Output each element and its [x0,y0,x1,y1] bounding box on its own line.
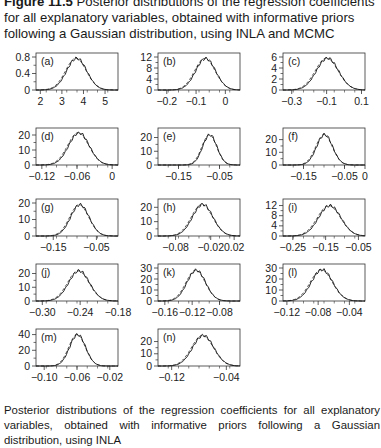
svg-text:20: 20 [18,129,30,141]
panel-label: (j) [41,266,50,278]
figure-number: Figure 11.5 [4,0,73,9]
panel-e: 01020−0.15−0.05(e) [124,120,254,195]
svg-text:10: 10 [140,145,152,157]
svg-text:−0.15: −0.15 [40,241,67,253]
svg-text:0.1: 0.1 [354,95,369,107]
svg-text:10: 10 [140,215,152,227]
svg-text:30: 30 [265,262,277,274]
svg-text:10: 10 [18,281,30,293]
svg-text:−0.05: −0.05 [83,241,110,253]
svg-text:10: 10 [18,213,30,225]
svg-text:−0.08: −0.08 [162,241,189,253]
svg-text:−0.15: −0.15 [165,170,192,182]
svg-text:−0.1: −0.1 [316,95,337,107]
svg-text:−0.12: −0.12 [158,371,185,383]
svg-text:−0.10: −0.10 [31,371,58,383]
panel-f: 01020−0.15−0.050(f) [249,120,379,195]
panel-label: (f) [288,130,298,142]
svg-text:−0.12: −0.12 [179,306,206,318]
panel-d: 01020−0.12−0.060(d) [2,120,132,195]
svg-text:−0.04: −0.04 [336,306,363,318]
svg-text:2: 2 [271,73,277,85]
svg-text:20: 20 [265,273,277,285]
svg-text:20: 20 [265,133,277,145]
panel-label: (i) [288,201,297,213]
svg-text:−0.02: −0.02 [197,241,224,253]
panel-label: (h) [163,201,176,213]
svg-text:20: 20 [140,201,152,213]
panel-label: (m) [41,331,57,343]
svg-text:4: 4 [81,95,87,107]
svg-text:0: 0 [222,95,228,107]
svg-text:−0.02: −0.02 [97,371,124,383]
svg-text:0: 0 [362,170,368,182]
svg-text:12: 12 [140,51,152,63]
svg-text:−0.05: −0.05 [331,170,358,182]
svg-text:0: 0 [146,159,152,171]
svg-text:−0.05: −0.05 [345,241,372,253]
svg-text:20: 20 [140,273,152,285]
panel-label: (e) [163,130,176,142]
svg-text:30: 30 [140,262,152,274]
panel-b: 04812−0.2−0.10(b) [124,45,254,120]
svg-text:20: 20 [18,197,30,209]
svg-text:10: 10 [18,144,30,156]
panel-k: 0102030−0.16−0.12−0.08(k) [124,256,254,331]
svg-text:5: 5 [102,95,108,107]
svg-text:0: 0 [146,84,152,96]
svg-text:6: 6 [271,51,277,63]
svg-text:−0.04: −0.04 [213,371,240,383]
svg-text:0: 0 [109,170,115,182]
panel-n: 01020−0.12−0.04(n) [124,321,254,396]
svg-text:−0.12: −0.12 [274,306,301,318]
svg-text:4: 4 [271,62,277,74]
svg-text:0: 0 [24,84,30,96]
svg-text:−0.3: −0.3 [281,95,302,107]
svg-text:0.02: 0.02 [224,241,245,253]
panel-c: 0246−0.3−0.10.1(c) [249,45,379,120]
svg-text:20: 20 [140,131,152,143]
panel-g: 01020−0.15−0.05(g) [2,191,132,266]
panel-label: (d) [41,130,54,142]
svg-text:0: 0 [24,159,30,171]
panel-label: (b) [163,55,176,67]
svg-text:−0.12: −0.12 [29,170,56,182]
svg-text:2: 2 [37,95,43,107]
figure-title: Figure 11.5 Posterior distributions of t… [4,0,380,42]
svg-text:0: 0 [146,295,152,307]
svg-text:−0.15: −0.15 [312,241,339,253]
svg-text:10: 10 [140,347,152,359]
svg-text:0: 0 [24,230,30,242]
panel-label: (l) [288,266,297,278]
svg-text:−0.06: −0.06 [64,170,91,182]
svg-text:−0.05: −0.05 [206,170,233,182]
svg-text:20: 20 [18,267,30,279]
svg-text:−0.08: −0.08 [305,306,332,318]
svg-text:0: 0 [271,159,277,171]
svg-text:0.4: 0.4 [15,67,30,79]
svg-text:8: 8 [146,62,152,74]
panel-i: 04812−0.25−0.15−0.05(i) [249,191,379,266]
svg-text:−0.1: −0.1 [186,95,207,107]
svg-text:0: 0 [271,295,277,307]
panel-label: (k) [163,266,175,278]
svg-text:0.8: 0.8 [15,51,30,63]
svg-text:10: 10 [265,284,277,296]
panel-label: (g) [41,201,54,213]
panel-label: (c) [288,55,300,67]
svg-text:−0.15: −0.15 [290,170,317,182]
svg-text:−0.25: −0.25 [280,241,307,253]
panel-label: (a) [41,55,54,67]
svg-text:3: 3 [59,95,65,107]
svg-text:0: 0 [24,295,30,307]
svg-text:4: 4 [146,73,152,85]
svg-text:0: 0 [271,84,277,96]
svg-text:20: 20 [18,344,30,356]
svg-text:12: 12 [265,199,277,211]
svg-text:−0.2: −0.2 [156,95,177,107]
svg-text:0: 0 [146,360,152,372]
svg-text:−0.30: −0.30 [29,306,56,318]
panel-m: 02040−0.10−0.06−0.02(m) [2,321,132,396]
svg-text:−0.08: −0.08 [206,306,233,318]
svg-text:10: 10 [265,146,277,158]
